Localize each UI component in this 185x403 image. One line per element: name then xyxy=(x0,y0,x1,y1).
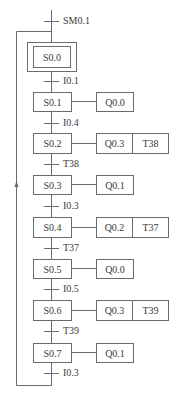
step-box: S0.5 xyxy=(33,259,72,279)
step-box: S0.6 xyxy=(33,300,72,321)
action-box: Q0.2 T37 xyxy=(96,217,169,238)
action-label: Q0.3 xyxy=(97,134,132,153)
timer-label: T38 xyxy=(132,134,168,153)
action-box: Q0.3 T38 xyxy=(96,133,169,154)
action-box: Q0.1 xyxy=(96,343,134,363)
step-box: S0.3 xyxy=(33,175,72,195)
action-label: Q0.0 xyxy=(97,260,133,278)
step-box: S0.7 xyxy=(33,343,72,363)
action-box: Q0.0 xyxy=(96,92,134,112)
action-label: Q0.1 xyxy=(97,176,133,194)
transition-label: I0.3 xyxy=(63,200,79,212)
action-label: Q0.3 xyxy=(97,301,132,320)
initial-step-outer: S0.0 xyxy=(27,42,77,72)
timer-label: T37 xyxy=(132,218,168,237)
transition-label: I0.5 xyxy=(63,283,79,295)
initial-step: S0.0 xyxy=(33,46,71,68)
action-label: Q0.1 xyxy=(97,344,133,362)
step-box: S0.4 xyxy=(33,217,72,238)
action-label: Q0.0 xyxy=(97,93,133,111)
action-box: Q0.1 xyxy=(96,175,134,195)
transition-label: T38 xyxy=(63,158,79,170)
step-box: S0.2 xyxy=(33,133,72,154)
transition-label-initial: SM0.1 xyxy=(63,15,90,27)
timer-label: T39 xyxy=(132,301,168,320)
action-box: Q0.3 T39 xyxy=(96,300,169,321)
transition-label: T39 xyxy=(63,325,79,337)
action-label: Q0.2 xyxy=(97,218,132,237)
action-box: Q0.0 xyxy=(96,259,134,279)
transition-label: I0.1 xyxy=(63,75,79,87)
transition-label: I0.3 xyxy=(63,367,79,379)
step-box: S0.1 xyxy=(33,92,72,112)
arrow-up-icon xyxy=(15,181,19,187)
transition-label: T37 xyxy=(63,242,79,254)
transition-label: I0.4 xyxy=(63,117,79,129)
